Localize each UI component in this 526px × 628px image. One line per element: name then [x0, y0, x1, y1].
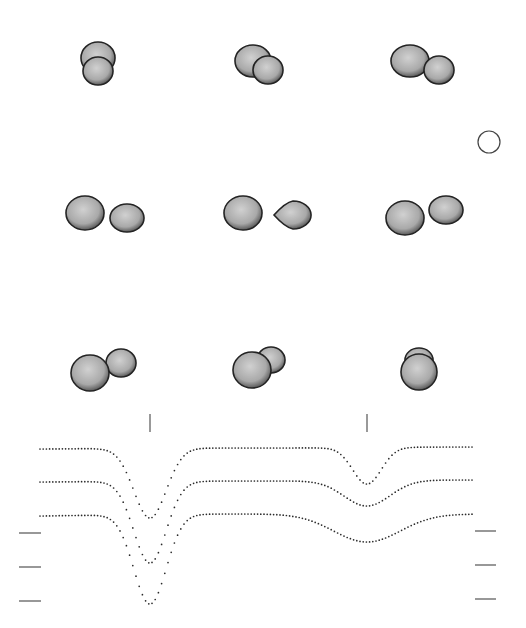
primary-star-icon [66, 196, 104, 230]
phase-panel-8 [233, 347, 285, 388]
phase-panel-7 [71, 349, 136, 391]
phase-panel-4 [66, 196, 144, 232]
curve-3 [39, 513, 473, 605]
primary-star-icon [233, 352, 271, 388]
phase-panel-5 [224, 196, 311, 230]
secondary-star-icon [83, 57, 113, 85]
secondary-star-icon [253, 56, 283, 84]
primary-star-icon [71, 355, 109, 391]
phase-panel-6 [386, 196, 463, 235]
reference-circle-icon [478, 131, 500, 153]
phase-panel-1 [81, 42, 115, 85]
eclipse-markers [150, 414, 367, 432]
secondary-star-icon [424, 56, 454, 84]
binary-star-figure [0, 0, 526, 628]
primary-star-icon [386, 201, 424, 235]
secondary-star-icon [274, 201, 311, 229]
primary-star-icon [391, 45, 429, 77]
light-curves [39, 446, 473, 605]
primary-star-icon [224, 196, 262, 230]
phase-panel-9 [401, 348, 437, 390]
secondary-star-icon [106, 349, 136, 377]
magnitude-ticks [19, 531, 496, 601]
curve-2 [39, 479, 473, 564]
secondary-star-icon [110, 204, 144, 232]
phase-panel-3 [391, 45, 454, 84]
primary-star-icon [401, 354, 437, 390]
secondary-star-icon [429, 196, 463, 224]
phase-panel-2 [235, 45, 283, 84]
phase-panels [66, 42, 463, 391]
